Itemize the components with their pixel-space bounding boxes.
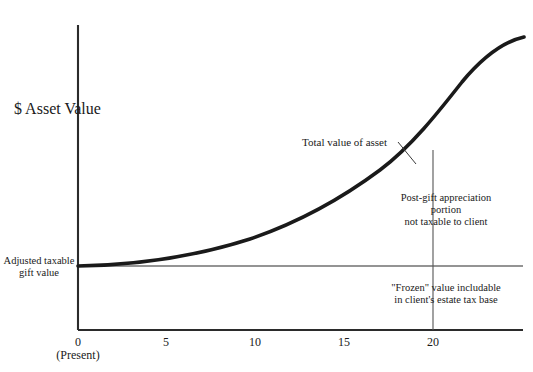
x-axis-present-note: (Present) — [48, 349, 108, 362]
frozen-value-text: "Frozen" value includable in client's es… — [391, 282, 500, 305]
x-tick-label-5: 5 — [146, 336, 186, 349]
adjusted-gift-value-label: Adjusted taxable gift value — [2, 255, 76, 279]
total-value-curve — [78, 37, 524, 266]
x-tick-label-15: 15 — [324, 336, 364, 349]
total-value-callout-label: Total value of asset — [302, 136, 387, 148]
x-tick-label-20: 20 — [413, 336, 453, 349]
y-axis-title: $ Asset Value — [14, 100, 101, 118]
asset-value-chart: $ Asset Value Adjusted taxable gift valu… — [0, 0, 533, 372]
y-axis-title-line-1: $ Asset Value — [14, 100, 101, 117]
chart-plot-area — [0, 0, 533, 372]
total-value-callout-text: Total value of asset — [302, 136, 387, 148]
x-tick-label-10: 10 — [235, 336, 275, 349]
adjusted-gift-value-text: Adjusted taxable gift value — [4, 255, 75, 278]
frozen-value-label: "Frozen" value includable in client's es… — [366, 282, 526, 306]
post-gift-appreciation-text: Post-gift appreciation portion not taxab… — [401, 192, 492, 227]
post-gift-appreciation-label: Post-gift appreciation portion not taxab… — [366, 192, 526, 227]
